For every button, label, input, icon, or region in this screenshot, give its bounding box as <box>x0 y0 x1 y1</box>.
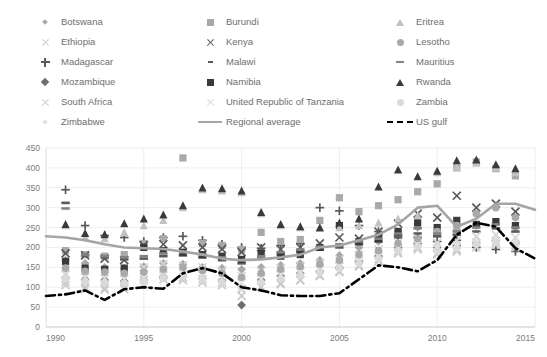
legend-item-south-africa[interactable]: South Africa <box>32 92 197 112</box>
x-axis-tick-label: 2010 <box>428 333 447 343</box>
solid-line <box>197 112 223 132</box>
legend-item-rwanda[interactable]: Rwanda <box>387 72 547 92</box>
y-axis-tick-label: 300 <box>26 203 40 213</box>
legend-item-malawi[interactable]: Malawi <box>197 52 387 72</box>
dash-marker <box>387 52 413 72</box>
legend-item-label: United Republic of Tanzania <box>223 92 344 112</box>
legend-item-label: Zambia <box>413 92 448 112</box>
circle-marker <box>387 32 413 52</box>
legend-item-label: Lesotho <box>413 32 450 52</box>
x-marker <box>32 32 58 52</box>
legend-item-label: South Africa <box>58 92 112 112</box>
circle-marker <box>387 92 413 112</box>
legend-item-botswana[interactable]: Botswana <box>32 12 197 32</box>
legend-item-label: Madagascar <box>58 52 113 72</box>
plot-area: 0501001502002503003504004501990199520002… <box>0 138 547 357</box>
square-marker <box>197 72 223 92</box>
y-axis-tick-label: 450 <box>26 143 40 153</box>
legend-column-1: BotswanaEthiopiaMadagascarMozambiqueSout… <box>32 12 197 132</box>
y-axis-tick-label: 200 <box>26 242 40 252</box>
legend-item-mozambique[interactable]: Mozambique <box>32 72 197 92</box>
legend-item-label: Eritrea <box>413 12 444 32</box>
x-marker <box>197 32 223 52</box>
dash-marker <box>197 52 223 72</box>
y-axis-tick-label: 350 <box>26 183 40 193</box>
x-axis-tick-label: 2000 <box>232 333 251 343</box>
legend-item-united-republic-of-tanzania[interactable]: United Republic of Tanzania <box>197 92 387 112</box>
legend-item-label: Zimbabwe <box>58 112 105 132</box>
legend-item-zambia[interactable]: Zambia <box>387 92 547 112</box>
diamond-marker <box>32 72 58 92</box>
legend-item-regional-average[interactable]: Regional average <box>197 112 387 132</box>
y-axis-tick-label: 150 <box>26 262 40 272</box>
legend-item-label: Ethiopia <box>58 32 95 52</box>
y-axis-tick-label: 50 <box>31 302 41 312</box>
legend-item-label: US gulf <box>413 112 447 132</box>
legend-column-2: BurundiKenyaMalawiNamibiaUnited Republic… <box>197 12 387 132</box>
legend-column-3: EritreaLesothoMauritiusRwandaZambiaUS gu… <box>387 12 547 132</box>
diamond-marker <box>32 112 58 132</box>
legend-item-burundi[interactable]: Burundi <box>197 12 387 32</box>
legend-item-eritrea[interactable]: Eritrea <box>387 12 547 32</box>
legend-item-label: Namibia <box>223 72 261 92</box>
plot-svg: 0501001502002503003504004501990199520002… <box>0 138 547 357</box>
legend-item-kenya[interactable]: Kenya <box>197 32 387 52</box>
y-axis-tick-label: 100 <box>26 282 40 292</box>
legend-item-mauritius[interactable]: Mauritius <box>387 52 547 72</box>
plus-marker <box>32 52 58 72</box>
y-axis-tick-label: 250 <box>26 223 40 233</box>
legend-item-label: Malawi <box>223 52 256 72</box>
diamond-marker <box>32 12 58 32</box>
legend-item-madagascar[interactable]: Madagascar <box>32 52 197 72</box>
x-axis-tick-label: 2015 <box>516 333 535 343</box>
legend-item-namibia[interactable]: Namibia <box>197 72 387 92</box>
x-marker <box>197 92 223 112</box>
x-axis-tick-label: 1990 <box>46 333 65 343</box>
legend-item-ethiopia[interactable]: Ethiopia <box>32 32 197 52</box>
legend-item-label: Botswana <box>58 12 103 32</box>
x-axis-tick-label: 2005 <box>330 333 349 343</box>
chart-figure: BotswanaEthiopiaMadagascarMozambiqueSout… <box>0 0 547 357</box>
legend-item-us-gulf[interactable]: US gulf <box>387 112 547 132</box>
y-axis-tick-label: 400 <box>26 163 40 173</box>
x-axis-tick-label: 1995 <box>134 333 153 343</box>
legend-item-label: Regional average <box>223 112 300 132</box>
legend-item-label: Kenya <box>223 32 253 52</box>
legend-item-label: Mauritius <box>413 52 455 72</box>
legend-item-label: Burundi <box>223 12 259 32</box>
triangle-marker <box>387 12 413 32</box>
y-axis-tick-label: 0 <box>35 322 40 332</box>
legend-item-lesotho[interactable]: Lesotho <box>387 32 547 52</box>
legend-item-zimbabwe[interactable]: Zimbabwe <box>32 112 197 132</box>
legend-item-label: Mozambique <box>58 72 115 92</box>
dash-dot-line <box>387 112 413 132</box>
x-marker <box>32 92 58 112</box>
chart-legend: BotswanaEthiopiaMadagascarMozambiqueSout… <box>0 0 547 140</box>
square-marker <box>197 12 223 32</box>
triangle-marker <box>387 72 413 92</box>
legend-item-label: Rwanda <box>413 72 451 92</box>
